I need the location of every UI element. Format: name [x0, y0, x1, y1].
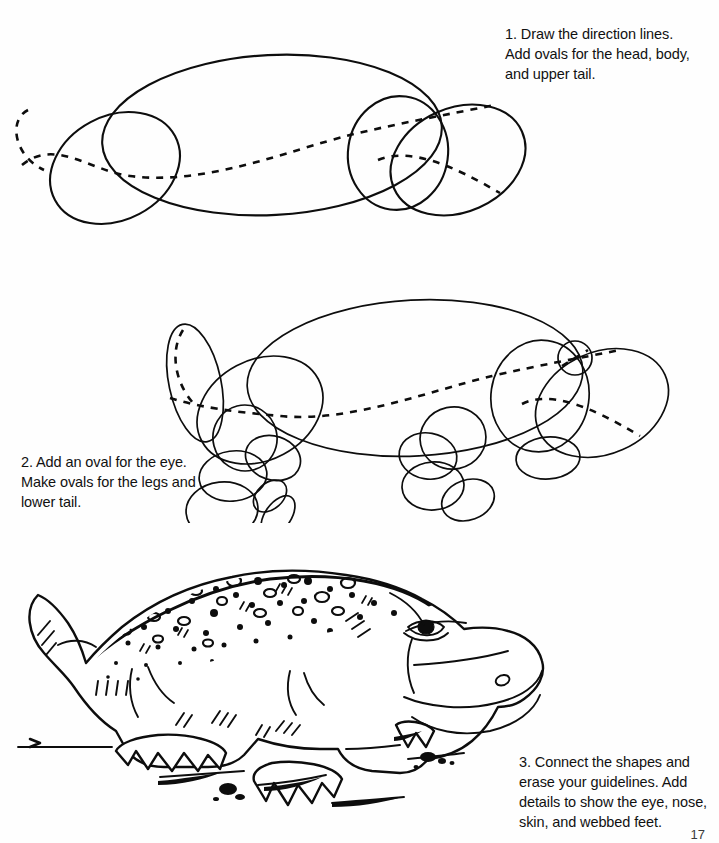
snout-oval — [518, 328, 686, 477]
step-1-instruction-text: 1. Draw the direction lines. Add ovals f… — [505, 24, 715, 84]
direction-line-spine — [22, 105, 495, 178]
drawing-lesson-page: 1. Draw the direction lines. Add ovals f… — [0, 0, 719, 843]
front-foot-toe-oval — [436, 472, 500, 523]
direction-line-spine — [170, 350, 620, 417]
page-number: 17 — [691, 827, 705, 842]
snout-oval — [373, 84, 543, 236]
alligator-body-outline — [29, 571, 543, 773]
step-3-instruction-text: 3. Connect the shapes and erase your gui… — [519, 752, 719, 832]
direction-line-tail — [175, 330, 194, 404]
direction-line-head — [522, 399, 640, 436]
direction-line-head — [378, 156, 500, 193]
front-foot-oval — [400, 460, 465, 512]
lower-tail-oval — [157, 319, 233, 447]
eye-pupil — [418, 620, 434, 634]
head-oval — [341, 90, 456, 217]
direction-line-tail-curl — [16, 110, 44, 170]
step-2-instruction-text: 2. Add an oval for the eye. Make ovals f… — [21, 452, 271, 512]
front-leg-upper-oval — [414, 401, 491, 475]
rear-oval — [31, 90, 200, 246]
rear-foot-pad-oval — [515, 435, 582, 481]
body-oval — [98, 46, 446, 224]
